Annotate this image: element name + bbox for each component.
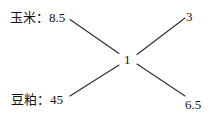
edge-center-to-top-right — [137, 18, 185, 55]
diagram-canvas: 玉米：8.5 豆粕：45 1 3 6.5 — [0, 0, 216, 117]
edge-corn-to-center — [70, 20, 119, 54]
node-label-soybean-meal: 豆粕：45 — [11, 93, 63, 106]
edge-soybean-meal-to-center — [70, 65, 119, 96]
node-label-corn: 玉米：8.5 — [10, 11, 65, 24]
node-label-center: 1 — [124, 53, 131, 66]
node-label-bottom-right: 6.5 — [185, 98, 201, 111]
edge-center-to-bottom-right — [137, 64, 185, 96]
node-label-top-right: 3 — [186, 10, 193, 23]
